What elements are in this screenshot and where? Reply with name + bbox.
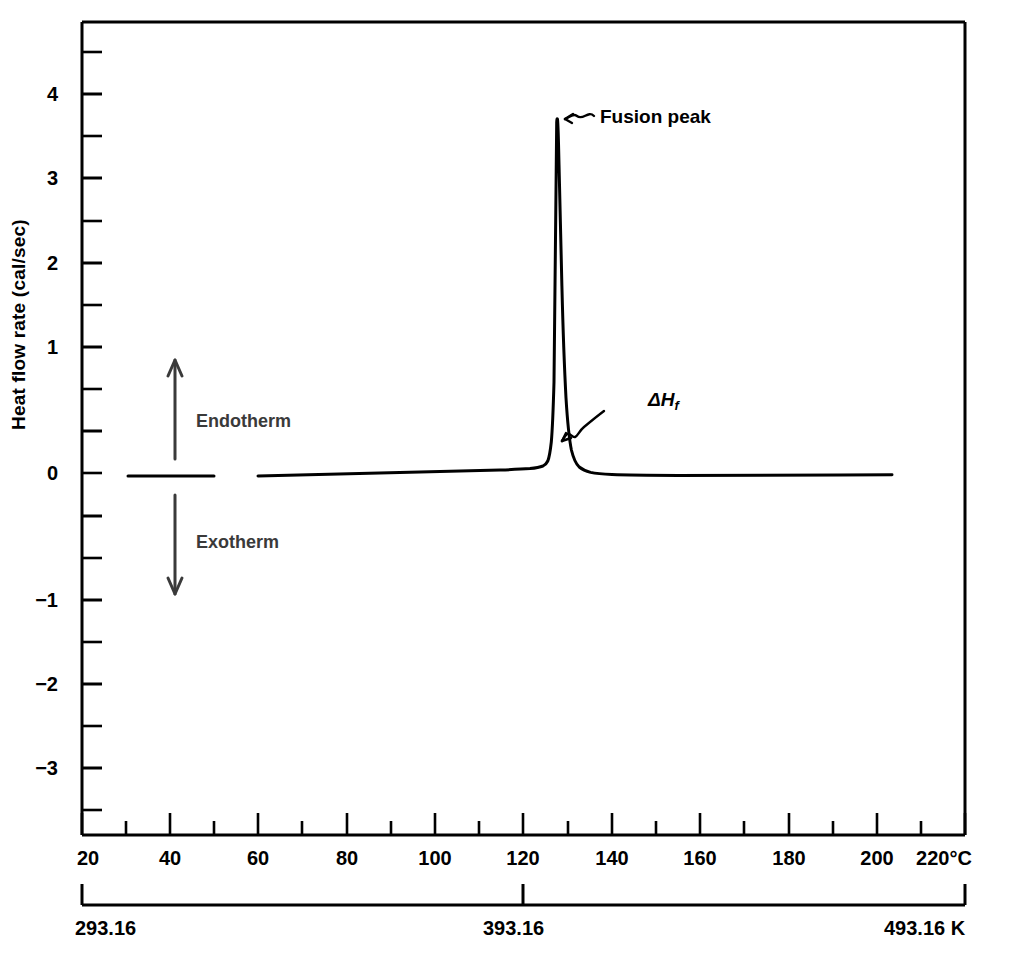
x-tick-label-60: 60: [247, 848, 269, 868]
exotherm-label: Exotherm: [196, 533, 279, 551]
celsius-unit-label: °C: [949, 847, 971, 869]
kelvin-tick-label-middle: 393.16: [483, 918, 544, 938]
dsc-thermogram-figure: Heat flow rate (cal/sec) 4 3 2 1 0 −1 −2…: [0, 0, 1022, 957]
delta-h-fusion-label: ΔHf: [648, 390, 679, 412]
kelvin-axis: [82, 884, 965, 905]
delta-h-subscript: f: [674, 398, 678, 413]
y-axis-title: Heat flow rate (cal/sec): [8, 219, 30, 430]
y-tick-label-neg-3: −3: [22, 758, 58, 778]
y-tick-label-1: 1: [22, 337, 58, 357]
kelvin-tick-label-end: 493.16 K: [884, 918, 965, 938]
y-axis-ticks: [82, 52, 102, 810]
exotherm-arrow-icon: [168, 495, 182, 594]
fusion-peak-label: Fusion peak: [600, 107, 711, 126]
x-axis-ticks: [82, 813, 965, 835]
y-tick-label-4: 4: [22, 84, 58, 104]
y-tick-label-0: 0: [22, 463, 58, 483]
x-tick-label-20: 20: [77, 848, 99, 868]
x-tick-label-200: 200: [860, 848, 893, 868]
kelvin-tick-label-start: 293.16: [75, 918, 136, 938]
kelvin-tick-label-end-value: 493.16: [884, 917, 945, 939]
x-tick-label-80: 80: [336, 848, 358, 868]
endotherm-arrow-icon: [168, 360, 182, 459]
y-tick-label-2: 2: [22, 253, 58, 273]
y-tick-label-3: 3: [22, 168, 58, 188]
x-tick-label-40: 40: [159, 848, 181, 868]
x-tick-label-180: 180: [772, 848, 805, 868]
delta-h-symbol: ΔH: [648, 389, 674, 410]
x-tick-label-160: 160: [683, 848, 716, 868]
kelvin-unit-label: K: [951, 917, 965, 939]
chart-canvas: [0, 0, 1022, 957]
y-tick-label-neg-2: −2: [22, 674, 58, 694]
fusion-peak-arrow: [565, 114, 594, 123]
endotherm-label: Endotherm: [196, 412, 291, 430]
x-tick-label-140: 140: [595, 848, 628, 868]
x-tick-label-120: 120: [506, 848, 539, 868]
x-tick-label-220-celsius: 220°C: [916, 848, 972, 868]
y-tick-label-neg-1: −1: [22, 590, 58, 610]
x-tick-label-220-value: 220: [916, 847, 949, 869]
dsc-trace-segment-2: [258, 119, 892, 476]
x-tick-label-100: 100: [418, 848, 451, 868]
